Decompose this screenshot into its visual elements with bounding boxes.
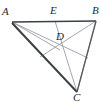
side-ca — [12, 23, 77, 92]
vertex-label-a: A — [2, 6, 9, 17]
vertex-label-d: D — [56, 31, 64, 42]
triangle-outline-group — [12, 21, 96, 92]
cevian-a-to-d-upper — [12, 22, 60, 50]
cevian-group — [12, 21, 96, 92]
vertex-label-c: C — [73, 92, 80, 103]
vertex-label-e: E — [50, 5, 57, 16]
side-ab — [12, 21, 96, 22]
cevian-a-to-g — [12, 22, 88, 58]
geometry-diagram: A E B D C — [0, 0, 101, 103]
vertex-label-b: B — [92, 5, 99, 16]
